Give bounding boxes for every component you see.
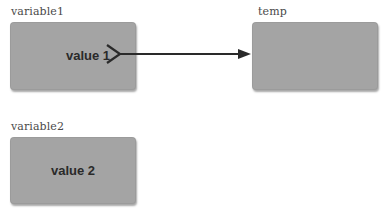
arrow-head-icon xyxy=(238,49,251,59)
copy-arrow xyxy=(0,0,382,216)
